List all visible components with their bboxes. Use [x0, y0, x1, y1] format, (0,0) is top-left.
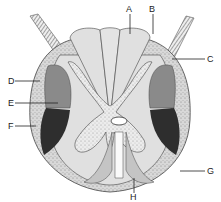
anterior-fissure — [115, 132, 123, 178]
central-canal — [111, 117, 127, 125]
label-D: D — [8, 77, 15, 86]
spinal-cord-diagram — [0, 0, 221, 202]
label-E: E — [8, 99, 14, 108]
label-B: B — [149, 5, 155, 14]
label-H: H — [130, 193, 137, 202]
label-G: G — [207, 167, 214, 176]
label-F: F — [8, 122, 14, 131]
label-C: C — [207, 55, 214, 64]
label-A: A — [126, 5, 132, 14]
